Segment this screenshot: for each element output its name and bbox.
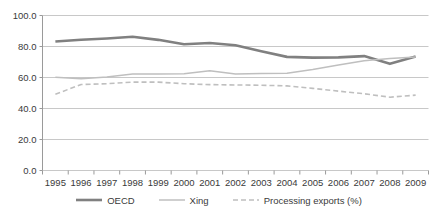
- x-tick-label: 2001: [197, 177, 223, 188]
- series-lines: [55, 37, 415, 97]
- x-tick-label: 2007: [351, 177, 377, 188]
- x-tick-label: 1999: [145, 177, 171, 188]
- series-line-processing-exports: [55, 82, 415, 97]
- legend-swatch-oecd: [76, 195, 102, 205]
- x-tick-label: 2004: [274, 177, 300, 188]
- line-chart: 0.020.040.060.080.0100.0 199519961997199…: [0, 0, 438, 213]
- x-tick-label: 2002: [223, 177, 249, 188]
- legend-swatch-processing-exports: [233, 195, 259, 205]
- chart-legend: OECDXingProcessing exports (%): [0, 190, 438, 210]
- legend-label: Processing exports (%): [264, 195, 362, 206]
- x-tick-label: 1996: [68, 177, 94, 188]
- y-tick-label: 40.0: [0, 103, 37, 114]
- legend-swatch-xing: [159, 195, 185, 205]
- legend-item-xing[interactable]: Xing: [159, 195, 209, 206]
- x-tick-marks: [43, 171, 429, 175]
- y-tick-label: 80.0: [0, 41, 37, 52]
- legend-item-oecd[interactable]: OECD: [76, 195, 134, 206]
- legend-label: OECD: [107, 195, 134, 206]
- legend-item-processing-exports[interactable]: Processing exports (%): [233, 195, 362, 206]
- legend-label: Xing: [190, 195, 209, 206]
- series-line-xing: [55, 57, 415, 79]
- x-tick-label: 1998: [120, 177, 146, 188]
- y-tick-label: 0.0: [0, 165, 37, 176]
- y-tick-label: 60.0: [0, 72, 37, 83]
- x-tick-label: 2009: [403, 177, 429, 188]
- x-tick-label: 2000: [171, 177, 197, 188]
- x-tick-label: 2003: [248, 177, 274, 188]
- x-tick-label: 2006: [326, 177, 352, 188]
- x-tick-label: 1995: [43, 177, 69, 188]
- x-tick-label: 2005: [300, 177, 326, 188]
- x-tick-label: 2008: [377, 177, 403, 188]
- axis-lines: [40, 16, 43, 171]
- y-tick-label: 100.0: [0, 10, 37, 21]
- y-tick-label: 20.0: [0, 134, 37, 145]
- x-tick-label: 1997: [94, 177, 120, 188]
- series-line-oecd: [55, 37, 415, 64]
